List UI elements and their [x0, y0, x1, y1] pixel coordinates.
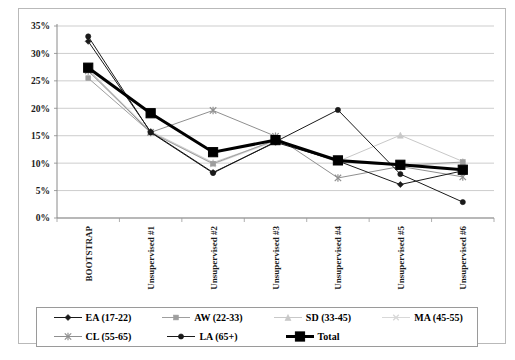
data-point-marker: [146, 109, 155, 118]
series-line: [88, 69, 463, 162]
data-point-marker: [458, 165, 467, 174]
legend-item-total[interactable]: Total: [257, 331, 367, 342]
data-point-marker: [397, 182, 403, 188]
line-chart-svg: 0%5%10%15%20%25%30%35%BOOTSTRAPUnsupervi…: [0, 0, 515, 360]
legend-marker-icon: [53, 331, 83, 342]
plot-area: 0%5%10%15%20%25%30%35%BOOTSTRAPUnsupervi…: [0, 0, 515, 360]
legend-item-aw-22-33[interactable]: AW (22-33): [147, 312, 257, 323]
y-axis-tick-label: 30%: [31, 49, 50, 59]
legend-marker-icon: [273, 312, 303, 323]
legend-item-sd-33-45[interactable]: SD (33-45): [257, 312, 367, 323]
x-axis-category-label: Unsupervised #4: [333, 226, 343, 290]
series-line: [88, 70, 463, 164]
data-point-marker: [396, 160, 405, 169]
series-ma-45-55: [85, 68, 465, 168]
x-axis-category-label: Unsupervised #6: [458, 226, 468, 290]
data-point-marker: [86, 76, 91, 81]
data-point-marker: [210, 107, 216, 115]
legend-marker-icon: [161, 312, 191, 323]
legend-label: Total: [318, 332, 340, 342]
y-axis-tick-label: 20%: [31, 104, 50, 114]
data-point-marker: [210, 170, 215, 175]
data-point-marker: [84, 63, 93, 72]
data-point-marker: [460, 160, 465, 165]
y-axis-tick-label: 10%: [31, 159, 50, 169]
data-point-marker: [335, 107, 340, 112]
legend-label: EA (17-22): [86, 313, 132, 323]
y-axis-tick-label: 0%: [36, 213, 50, 223]
x-axis-category-label: Unsupervised #2: [209, 226, 219, 290]
y-axis-tick-label: 35%: [31, 21, 50, 31]
legend-item-cl-55-65[interactable]: CL (55-65): [37, 331, 147, 342]
y-axis-tick-label: 25%: [31, 76, 50, 86]
data-point-marker: [397, 132, 403, 138]
data-point-marker: [295, 332, 304, 341]
data-point-marker: [460, 199, 465, 204]
data-point-marker: [398, 172, 403, 177]
y-axis-tick-label: 5%: [36, 186, 50, 196]
y-axis-labels: 0%5%10%15%20%25%30%35%: [31, 21, 50, 223]
series-aw-22-33: [86, 76, 465, 168]
legend-item-la-65[interactable]: LA (65+): [147, 331, 257, 342]
x-axis-labels: BOOTSTRAPUnsupervised #1Unsupervised #2U…: [84, 226, 469, 290]
legend-label: SD (33-45): [306, 313, 351, 323]
series-line: [88, 68, 463, 170]
data-point-marker: [333, 156, 342, 165]
data-point-marker: [208, 148, 217, 157]
data-point-marker: [211, 161, 216, 166]
x-axis-category-label: Unsupervised #1: [146, 226, 156, 290]
data-point-marker: [65, 315, 71, 321]
data-point-marker: [86, 34, 91, 39]
chart-legend: EA (17-22)AW (22-33)SD (33-45)MA (45-55)…: [36, 307, 478, 347]
legend-item-ea-17-22[interactable]: EA (17-22): [37, 312, 147, 323]
legend-marker-icon: [53, 312, 83, 323]
legend-label: CL (55-65): [86, 332, 132, 342]
legend-label: LA (65+): [199, 332, 237, 342]
legend-marker-icon: [381, 312, 411, 323]
x-axis-category-label: BOOTSTRAP: [84, 226, 94, 282]
legend-marker-icon: [285, 331, 315, 342]
legend-label: AW (22-33): [194, 313, 242, 323]
legend-item-ma-45-55[interactable]: MA (45-55): [367, 312, 477, 323]
data-point-marker: [148, 130, 153, 135]
y-axis-tick-label: 15%: [31, 131, 50, 141]
data-point-marker: [174, 315, 179, 320]
series-line: [88, 36, 463, 202]
x-axis-category-label: Unsupervised #3: [271, 226, 281, 290]
legend-label: MA (45-55): [414, 313, 463, 323]
legend-marker-icon: [166, 331, 196, 342]
data-point-marker: [179, 334, 184, 339]
chart-root: 0%5%10%15%20%25%30%35%BOOTSTRAPUnsupervi…: [0, 0, 515, 360]
legend-grid: EA (17-22)AW (22-33)SD (33-45)MA (45-55)…: [37, 308, 477, 346]
series-line: [88, 78, 463, 165]
x-axis-category-label: Unsupervised #5: [396, 226, 406, 290]
grid-lines: [54, 26, 494, 218]
series-la-65: [86, 34, 466, 205]
data-point-marker: [271, 136, 280, 145]
